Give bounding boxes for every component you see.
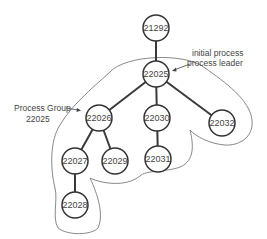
process-group-diagram: 21292 22025 22026 22030 22032 22027 2202… bbox=[0, 0, 267, 239]
group-arrow-head-icon bbox=[77, 108, 82, 112]
node-22028: 22028 bbox=[62, 192, 88, 218]
node-label: 21292 bbox=[143, 23, 168, 33]
group-annotation-line2: 22025 bbox=[26, 114, 50, 124]
node-21292: 21292 bbox=[143, 15, 169, 41]
node-22030: 22030 bbox=[144, 105, 170, 131]
node-22029: 22029 bbox=[102, 148, 128, 174]
leader-annotation: initial process process leader bbox=[172, 48, 244, 72]
node-22032: 22032 bbox=[209, 110, 235, 136]
node-22027: 22027 bbox=[62, 148, 88, 174]
node-label: 22029 bbox=[102, 156, 127, 166]
node-label: 22030 bbox=[144, 113, 169, 123]
node-22025: 22025 bbox=[143, 61, 169, 87]
node-label: 22026 bbox=[86, 113, 111, 123]
node-22031: 22031 bbox=[145, 146, 171, 172]
node-label: 22028 bbox=[62, 200, 87, 210]
leader-annotation-line2: process leader bbox=[187, 58, 243, 68]
leader-annotation-line1: initial process bbox=[192, 48, 244, 58]
group-annotation-line1: Process Group bbox=[14, 103, 71, 113]
node-label: 22027 bbox=[62, 156, 87, 166]
leader-arrow-head-icon bbox=[172, 68, 177, 72]
group-annotation: Process Group 22025 bbox=[14, 103, 81, 124]
node-label: 22031 bbox=[145, 154, 170, 164]
node-label: 22025 bbox=[143, 69, 168, 79]
node-22026: 22026 bbox=[86, 105, 112, 131]
node-label: 22032 bbox=[209, 118, 234, 128]
